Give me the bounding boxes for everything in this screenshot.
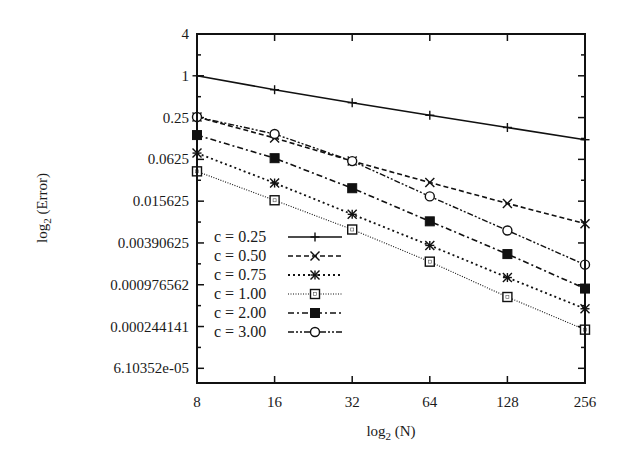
legend-marker-filled-square: [311, 309, 320, 318]
legend-item: c = 0.75: [214, 266, 342, 283]
series-line-1: [197, 117, 585, 224]
data-point-open-circle: [503, 226, 512, 235]
legend-item: c = 2.00: [214, 304, 342, 321]
data-point-filled-square: [503, 250, 512, 259]
legend-item: c = 1.00: [214, 285, 342, 302]
legend: c = 0.25c = 0.50c = 0.75c = 1.00c = 2.00…: [214, 228, 342, 340]
y-tick-label: 0.00390625: [118, 235, 189, 251]
y-axis-label: log2 (Error): [34, 173, 53, 243]
x-tick-label: 64: [422, 394, 438, 410]
legend-label: c = 2.00: [214, 304, 266, 321]
legend-label: c = 3.00: [214, 323, 266, 340]
legend-item: c = 0.25: [214, 228, 342, 245]
legend-marker-open-square: [311, 290, 320, 299]
data-point-open-circle: [348, 157, 357, 166]
legend-item: c = 3.00: [214, 323, 342, 340]
series-line-0: [197, 76, 585, 140]
data-point-open-square: [270, 196, 279, 205]
legend-label: c = 0.25: [214, 228, 266, 245]
x-tick-label: 32: [345, 394, 360, 410]
legend-item: c = 0.50: [214, 247, 342, 264]
data-point-plus: [270, 85, 279, 94]
data-point-open-square: [348, 225, 357, 234]
legend-marker-open-circle: [311, 328, 320, 337]
data-point-star: [503, 273, 512, 282]
legend-label: c = 1.00: [214, 285, 266, 302]
data-point-open-circle: [425, 192, 434, 201]
y-tick-label: 0.25: [163, 110, 189, 126]
data-point-filled-square: [425, 217, 434, 226]
y-tick-label: 1: [182, 68, 190, 84]
x-tick-label: 256: [574, 394, 597, 410]
y-tick-label: 6.10352e-05: [114, 360, 189, 376]
legend-marker-star: [311, 271, 320, 280]
data-point-open-square: [425, 257, 434, 266]
ticks-layer: 8163264128256410.250.06250.0156250.00390…: [110, 26, 597, 410]
data-point-open-square: [503, 293, 512, 302]
data-point-cross: [503, 199, 512, 208]
data-point-star: [270, 179, 279, 188]
legend-label: c = 0.75: [214, 266, 266, 283]
y-tick-label: 0.000244141: [110, 319, 189, 335]
data-point-plus: [425, 111, 434, 120]
legend-marker-plus: [311, 233, 320, 242]
x-tick-label: 128: [496, 394, 519, 410]
y-tick-label: 0.000976562: [110, 277, 189, 293]
data-point-star: [348, 210, 357, 219]
x-tick-label: 8: [193, 394, 201, 410]
data-point-cross: [425, 178, 434, 187]
data-point-plus: [348, 98, 357, 107]
legend-label: c = 0.50: [214, 247, 266, 264]
convergence-chart: 8163264128256410.250.06250.0156250.00390…: [0, 0, 620, 462]
y-tick-label: 0.0625: [148, 151, 189, 167]
data-point-filled-square: [348, 184, 357, 193]
x-tick-label: 16: [267, 394, 283, 410]
data-point-open-circle: [270, 129, 279, 138]
y-tick-label: 0.015625: [133, 193, 189, 209]
data-point-filled-square: [270, 154, 279, 163]
legend-marker-cross: [311, 252, 320, 261]
data-point-plus: [503, 123, 512, 132]
data-point-star: [425, 241, 434, 250]
x-axis-label: log2 (N): [366, 423, 415, 442]
y-tick-label: 4: [182, 26, 190, 42]
